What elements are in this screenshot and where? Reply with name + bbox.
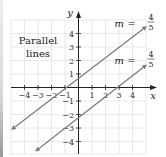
y-tick-label: 1 [69, 70, 74, 79]
y-tick-label: 3 [69, 43, 74, 52]
y-axis-arrow-icon [76, 11, 81, 18]
y-tick-label: −4 [62, 138, 74, 147]
x-tick-label: 1 [89, 91, 94, 100]
y-tick-label: −1 [62, 97, 74, 106]
x-axis: −4 −3 −2 −1 1 2 3 4 x [11, 85, 157, 101]
y-axis-label: y [66, 7, 73, 18]
x-axis-label: x [150, 90, 156, 101]
upper-slope-label: m = 4 5 [114, 13, 154, 32]
lower-parallel-line [37, 66, 145, 150]
x-tick-label: 4 [130, 91, 135, 100]
slope-numerator: 4 [148, 13, 153, 22]
x-tick-label: 3 [116, 91, 121, 100]
slope-denominator: 5 [148, 60, 153, 69]
annotation-lines: lines [26, 48, 50, 59]
annotation-parallel: Parallel [19, 35, 58, 46]
x-tick-label: −4 [19, 91, 31, 100]
x-tick-label: −3 [32, 91, 44, 100]
lower-slope-label: m = 4 5 [114, 50, 154, 69]
slope-numerator: 4 [148, 50, 153, 59]
coordinate-plane: −4 −3 −2 −1 1 2 3 4 x 4 3 2 1 −1 −2 −3 −… [0, 0, 166, 157]
y-tick-label: 2 [69, 57, 74, 66]
slope-m-text: m = [114, 55, 135, 66]
y-tick-label: 4 [69, 30, 74, 39]
slope-m-text: m = [114, 18, 135, 29]
y-tick-label: −2 [62, 111, 74, 120]
slope-denominator: 5 [148, 23, 153, 32]
